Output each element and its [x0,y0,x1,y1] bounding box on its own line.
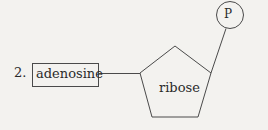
phosphate-label: P [224,8,232,20]
adenosine-label: adenosine [36,67,103,80]
diagram-canvas: 2. adenosine ribose P [0,0,268,130]
item-number: 2. [14,66,26,79]
ribose-label: ribose [159,81,200,94]
ribose-phosphate-bond [211,29,226,74]
